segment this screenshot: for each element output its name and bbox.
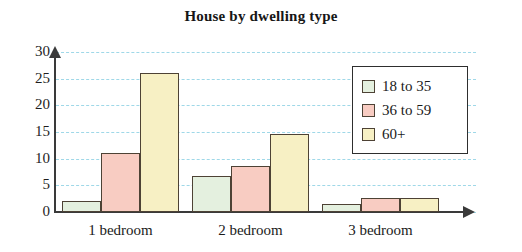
y-axis-tick-label: 20	[22, 97, 50, 112]
bar-chart: House by dwelling type 051015202530 1 be…	[0, 0, 522, 252]
x-axis-arrow-icon	[463, 206, 475, 218]
legend: 18 to 3536 to 5960+	[352, 66, 468, 154]
legend-swatch-icon	[362, 104, 375, 117]
y-axis-line	[54, 56, 56, 213]
legend-swatch-icon	[362, 128, 375, 141]
bar	[62, 201, 101, 212]
y-axis-tick-label: 0	[22, 204, 50, 219]
bar	[231, 166, 270, 212]
y-axis-tick-label: 30	[22, 44, 50, 59]
legend-label: 60+	[382, 127, 405, 142]
bar	[322, 204, 361, 212]
legend-swatch-icon	[362, 80, 375, 93]
x-axis-category-label: 3 bedroom	[300, 222, 461, 239]
gridline	[56, 52, 476, 53]
y-axis-tick-label: 5	[22, 177, 50, 192]
legend-label: 36 to 59	[382, 103, 431, 118]
bar	[361, 198, 400, 212]
bar	[400, 198, 439, 212]
legend-label: 18 to 35	[382, 79, 431, 94]
y-axis-tick-label: 25	[22, 71, 50, 86]
y-axis-tick-label: 15	[22, 124, 50, 139]
legend-item: 60+	[362, 122, 459, 146]
bar	[270, 134, 309, 212]
bar	[101, 153, 140, 212]
bar	[140, 73, 179, 212]
bar	[192, 176, 231, 212]
y-axis-arrow-icon	[49, 46, 61, 58]
y-axis-tick-labels: 051015202530	[16, 0, 50, 252]
chart-title: House by dwelling type	[0, 8, 522, 25]
legend-item: 18 to 35	[362, 74, 459, 98]
legend-item: 36 to 59	[362, 98, 459, 122]
y-axis-tick-label: 10	[22, 151, 50, 166]
